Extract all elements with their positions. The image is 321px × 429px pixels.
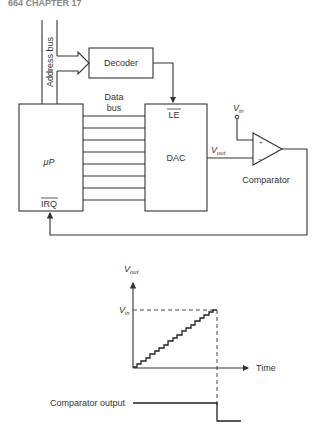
data-bus-label-1: Data bbox=[104, 92, 123, 102]
address-bus-label: Address bus bbox=[45, 36, 55, 87]
data-bus-label-2: bus bbox=[107, 103, 122, 113]
vout-axis-label: Vout bbox=[124, 264, 139, 275]
minus-sign: − bbox=[258, 156, 262, 162]
microprocessor-label: μP bbox=[43, 157, 55, 167]
plus-sign: + bbox=[259, 139, 263, 145]
comparator-output-label: Comparator output bbox=[50, 398, 126, 408]
comparator-output-waveform: Comparator output bbox=[50, 398, 241, 421]
vin-marker-label: Vin bbox=[119, 305, 130, 316]
vin-terminal bbox=[235, 115, 239, 119]
le-label: LE bbox=[168, 110, 179, 120]
staircase-ramp bbox=[133, 310, 217, 367]
microprocessor-block: μP IRQ bbox=[19, 104, 83, 211]
vout-label: Vout bbox=[211, 145, 226, 156]
decoder-label: Decoder bbox=[104, 58, 138, 68]
comparator-label: Comparator bbox=[242, 175, 290, 185]
sar-adc-diagram: 664 CHAPTER 17 Address bus Decoder μP IR… bbox=[0, 0, 321, 429]
data-bus bbox=[83, 116, 145, 200]
timing-chart: Vout Vin Time bbox=[119, 264, 276, 405]
comparator: + − Comparator bbox=[242, 133, 290, 185]
vin-wire bbox=[237, 119, 253, 140]
vin-label: Vin bbox=[233, 103, 244, 114]
decoder-to-le-line bbox=[153, 63, 173, 102]
comparator-output-line bbox=[133, 403, 241, 421]
dac-block: LE DAC bbox=[145, 104, 207, 211]
dac-label: DAC bbox=[166, 153, 186, 163]
address-bus: Address bus bbox=[42, 20, 89, 104]
page-header: 664 CHAPTER 17 bbox=[8, 0, 82, 8]
irq-label: IRQ bbox=[41, 199, 57, 209]
time-axis-label: Time bbox=[256, 363, 276, 373]
decoder-block: Decoder bbox=[89, 48, 153, 78]
